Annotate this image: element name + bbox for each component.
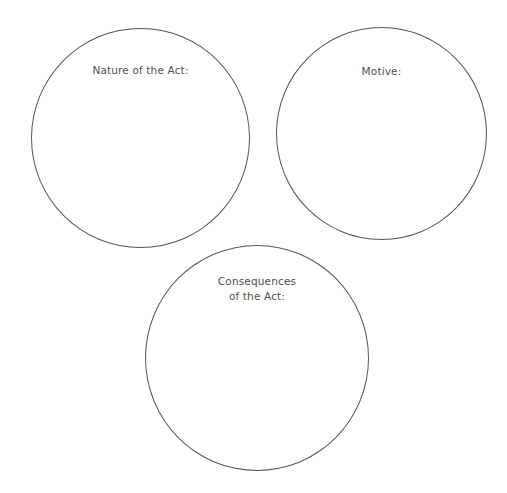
circle-consequences-of-the-act[interactable]: Consequences of the Act: xyxy=(145,245,369,471)
circle-motive[interactable]: Motive: xyxy=(276,27,487,240)
three-circles-worksheet: Nature of the Act: Motive: Consequences … xyxy=(0,0,507,493)
circle-consequences-of-the-act-label: Consequences of the Act: xyxy=(146,274,368,304)
circle-nature-of-the-act[interactable]: Nature of the Act: xyxy=(31,28,250,248)
circle-nature-of-the-act-label: Nature of the Act: xyxy=(32,63,249,78)
circle-motive-label: Motive: xyxy=(277,64,486,79)
